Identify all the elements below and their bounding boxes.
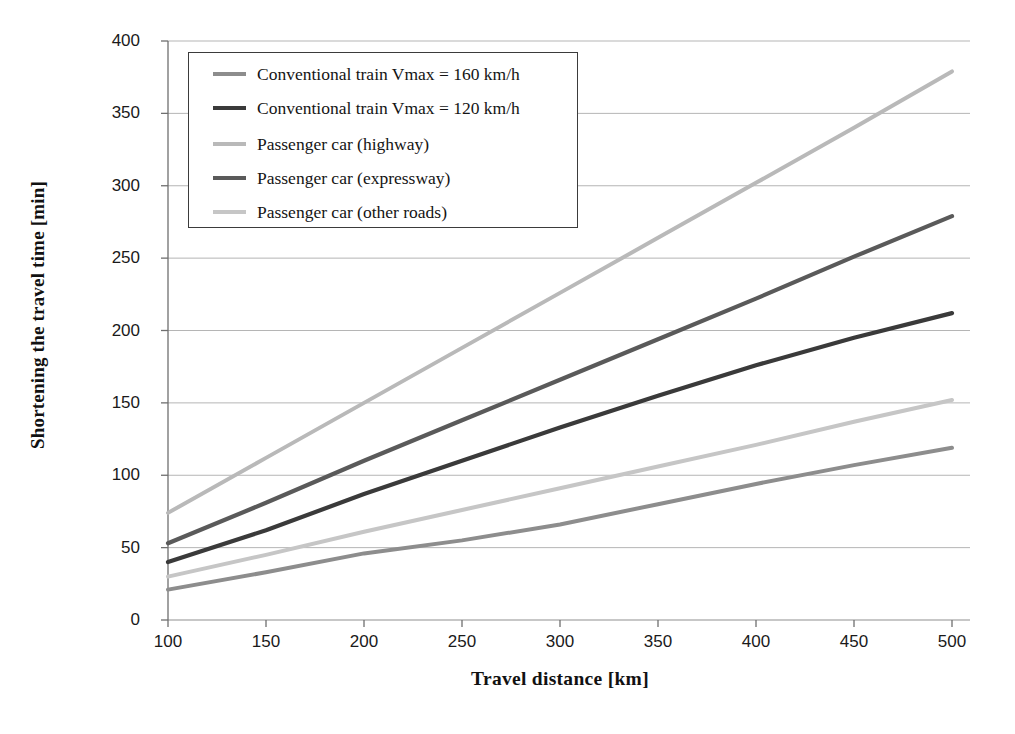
legend-swatch-icon (213, 176, 246, 180)
y-tick-label: 300 (96, 177, 140, 194)
y-tick-label: 200 (96, 322, 140, 339)
legend-item: Passenger car (other roads) (189, 201, 447, 223)
legend-label: Conventional train Vmax = 120 km/h (257, 98, 520, 119)
legend-swatch-icon (213, 106, 246, 110)
legend-item: Passenger car (highway) (189, 133, 429, 155)
y-tick-label: 50 (96, 539, 140, 556)
chart-legend: Conventional train Vmax = 160 km/hConven… (188, 52, 578, 228)
legend-swatch-icon (213, 210, 246, 214)
legend-item: Conventional train Vmax = 160 km/h (189, 63, 520, 85)
legend-label: Passenger car (expressway) (257, 168, 450, 189)
chart-figure: Shortening the travel time [min] Travel … (0, 0, 1015, 734)
series-line (168, 448, 952, 590)
y-tick-label: 100 (96, 466, 140, 483)
series-line (168, 216, 952, 543)
legend-swatch-icon (213, 142, 246, 146)
legend-label: Passenger car (other roads) (257, 202, 447, 223)
y-axis-title: Shortening the travel time [min] (27, 105, 57, 525)
legend-label: Passenger car (highway) (257, 134, 429, 155)
legend-item: Passenger car (expressway) (189, 167, 450, 189)
legend-swatch-icon (213, 72, 246, 76)
legend-label: Conventional train Vmax = 160 km/h (257, 64, 520, 85)
y-tick-label: 250 (96, 249, 140, 266)
y-tick-label: 0 (96, 611, 140, 628)
y-tick-label: 350 (96, 104, 140, 121)
legend-item: Conventional train Vmax = 120 km/h (189, 97, 520, 119)
x-axis-title: Travel distance [km] (168, 668, 952, 690)
y-tick-label: 150 (96, 394, 140, 411)
y-tick-label: 400 (96, 32, 140, 49)
